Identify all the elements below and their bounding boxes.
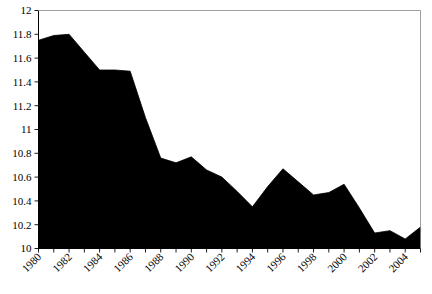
y-axis-tick-label: 10.2 (12, 219, 31, 231)
y-axis-tick-label: 11.4 (13, 76, 32, 88)
y-axis-tick-label: 10.8 (12, 147, 32, 159)
chart-figure: 1010.210.410.610.81111.211.411.611.812 1… (0, 0, 432, 294)
y-axis-tick-label: 11.6 (13, 52, 32, 64)
y-axis-tick-label: 11 (21, 123, 32, 135)
area-chart: 1010.210.410.610.81111.211.411.611.812 1… (0, 0, 432, 294)
y-axis-tick-label: 12 (21, 4, 32, 16)
y-axis-tick-label: 10 (21, 242, 33, 254)
y-axis-tick-label: 10.4 (12, 195, 32, 207)
y-axis-tick-label: 11.8 (13, 28, 32, 40)
y-axis-tick-label: 11.2 (13, 100, 32, 112)
y-axis-tick-label: 10.6 (12, 171, 32, 183)
